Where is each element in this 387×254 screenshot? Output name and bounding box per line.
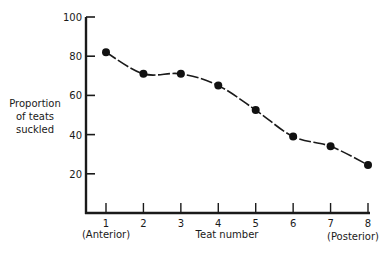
x-tick-label: 4 [215, 218, 221, 229]
x-ticks: 12345678 [103, 203, 371, 229]
x-tick-label: 5 [253, 218, 259, 229]
y-tick-label: 100 [63, 12, 82, 23]
data-point [364, 161, 372, 169]
data-point [177, 70, 185, 78]
x-tick-label: 7 [327, 218, 333, 229]
axes [85, 17, 370, 214]
x-tick-label: 3 [178, 218, 184, 229]
y-axis-label: Proportion of teats suckled [0, 97, 70, 136]
y-tick-label: 80 [69, 51, 82, 62]
y-tick-label: 40 [69, 130, 82, 141]
data-point [252, 106, 260, 114]
data-point [102, 48, 110, 56]
x-tick-label: 1 [103, 218, 109, 229]
data-point [327, 142, 335, 150]
y-axis-label-line: suckled [0, 123, 70, 136]
y-ticks: 20406080100 [63, 12, 95, 180]
data-point [139, 70, 147, 78]
x-annotation-posterior: (Posterior) [327, 231, 379, 242]
y-tick-label: 20 [69, 169, 82, 180]
x-tick-label: 2 [140, 218, 146, 229]
y-tick-label: 60 [69, 90, 82, 101]
data-point [214, 82, 222, 90]
x-tick-label: 6 [290, 218, 296, 229]
x-tick-label: 8 [365, 218, 371, 229]
data-point [289, 133, 297, 141]
x-axis-label: Teat number [195, 229, 260, 240]
y-axis-label-line: Proportion [0, 97, 70, 110]
x-annotation-anterior: (Anterior) [82, 229, 130, 240]
data-points [102, 48, 372, 169]
y-axis-label-line: of teats [0, 110, 70, 123]
